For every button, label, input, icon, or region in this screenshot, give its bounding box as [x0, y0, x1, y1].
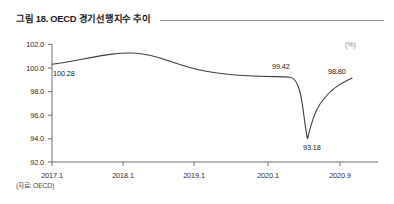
y-tick-label-100: 100.0: [8, 65, 44, 72]
y-tick-label-92: 92.0: [8, 159, 44, 166]
data-label-98-80: 98.80: [328, 68, 346, 75]
y-tick-label-102: 102.0: [8, 41, 44, 48]
x-tick-label-2020-1: 2020.1: [238, 172, 298, 179]
data-label-100-28: 100.28: [53, 70, 75, 77]
x-tick-label-2020-9: 2020.9: [310, 172, 370, 179]
x-tick-label-2018-1: 2018.1: [93, 172, 153, 179]
x-tick-label-2017-1: 2017.1: [22, 172, 82, 179]
data-label-93-18: 93.18: [303, 144, 321, 151]
source-note: (자료: OECD): [16, 183, 54, 190]
y-axis-ticks: [48, 44, 52, 162]
data-series-line: [52, 53, 352, 139]
y-tick-label-98: 98.0: [8, 88, 44, 95]
y-tick-label-96: 96.0: [8, 112, 44, 119]
data-label-99-42: 99.42: [272, 63, 290, 70]
line-chart: (%) 102.0 100.0 98.0 96.0 94.0 92.0 2017…: [0, 0, 394, 204]
unit-label: (%): [345, 41, 356, 48]
y-tick-label-94: 94.0: [8, 135, 44, 142]
x-tick-label-2019-1: 2019.1: [164, 172, 224, 179]
x-axis-ticks: [52, 162, 340, 166]
